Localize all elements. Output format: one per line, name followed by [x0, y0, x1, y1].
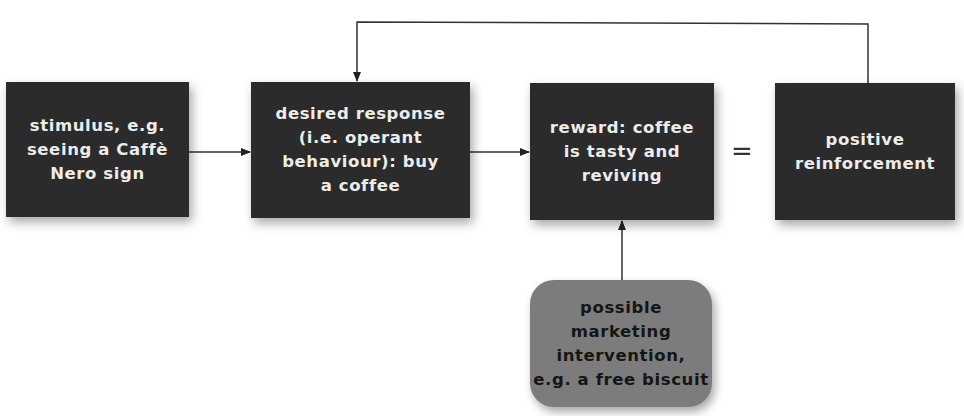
node-marketing-intervention: possible marketing intervention, e.g. a … [530, 280, 712, 407]
node-positive-reinforcement: positive reinforcement [775, 83, 955, 220]
node-desired-response-label: desired response (i.e. operant behaviour… [275, 102, 445, 198]
node-desired-response: desired response (i.e. operant behaviour… [251, 82, 470, 218]
node-stimulus-label: stimulus, e.g. seeing a Caffè Nero sign [27, 114, 168, 186]
node-reward: reward: coffee is tasty and reviving [530, 83, 714, 220]
node-positive-reinforcement-label: positive reinforcement [795, 128, 935, 176]
node-reward-label: reward: coffee is tasty and reviving [550, 116, 694, 188]
equals-sign: = [731, 136, 753, 166]
node-stimulus: stimulus, e.g. seeing a Caffè Nero sign [6, 82, 189, 217]
node-marketing-intervention-label: possible marketing intervention, e.g. a … [533, 296, 708, 392]
feedback-arrow [357, 22, 868, 83]
